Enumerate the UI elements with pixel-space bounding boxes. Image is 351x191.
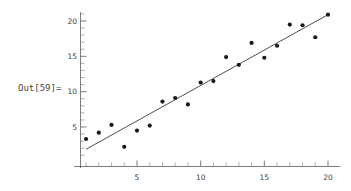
scatter-plot-graphic[interactable]: 5101520 5101520	[0, 0, 351, 191]
y-tick-label: 15	[67, 52, 77, 61]
data-point	[211, 79, 215, 83]
data-point	[313, 35, 317, 39]
x-tick-label: 15	[260, 173, 270, 182]
data-point	[262, 56, 266, 60]
x-tick-label: 10	[196, 173, 206, 182]
notebook-output-cell: Out[59]= 5101520 5101520	[0, 0, 351, 191]
data-point	[135, 128, 139, 132]
data-point	[186, 102, 190, 106]
plot-svg: 5101520 5101520	[0, 0, 351, 191]
y-axis-ticks: 5101520	[67, 14, 86, 155]
plot-axes	[74, 12, 340, 168]
x-tick-label: 20	[323, 173, 333, 182]
data-point	[224, 55, 228, 59]
y-tick-label: 5	[72, 123, 77, 132]
x-axis-ticks: 5101520	[86, 161, 333, 183]
y-tick-label: 20	[67, 17, 77, 26]
data-point	[160, 99, 164, 103]
data-point	[288, 22, 292, 26]
regression-line	[86, 15, 328, 150]
data-point	[275, 44, 279, 48]
x-tick-label: 5	[135, 173, 140, 182]
data-point	[84, 137, 88, 141]
data-point	[249, 41, 253, 45]
data-point	[148, 123, 152, 127]
data-point	[199, 80, 203, 84]
data-point	[97, 131, 101, 135]
data-points	[84, 13, 330, 149]
data-point	[237, 63, 241, 67]
data-point	[122, 145, 126, 149]
regression-line-segment	[86, 15, 328, 150]
y-tick-label: 10	[67, 87, 77, 96]
data-point	[300, 23, 304, 27]
data-point	[173, 96, 177, 100]
data-point	[109, 123, 113, 127]
data-point	[326, 13, 330, 17]
